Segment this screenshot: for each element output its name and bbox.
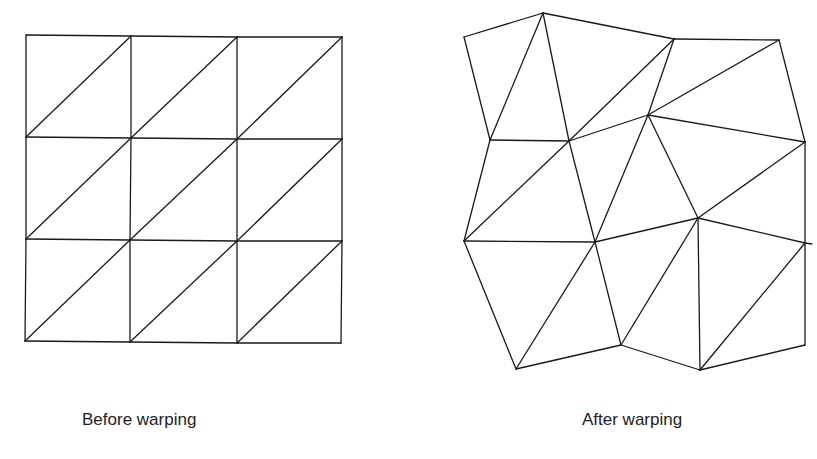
mesh-edge [543, 13, 569, 141]
mesh-edge [700, 243, 805, 370]
mesh-edge [130, 240, 237, 241]
mesh-edge [569, 39, 674, 141]
mesh-edge [237, 139, 342, 241]
mesh-after-warping [464, 13, 812, 370]
mesh-edge [26, 35, 131, 36]
mesh-edge [490, 140, 569, 141]
mesh-edge [516, 345, 621, 369]
mesh-edge [131, 138, 237, 139]
mesh-edge [674, 39, 779, 40]
mesh-edge [648, 115, 698, 218]
mesh-edge [130, 342, 237, 343]
mesh-edge [26, 239, 130, 240]
warping-figure [0, 0, 817, 459]
mesh-edge [516, 242, 595, 369]
mesh-edge [543, 13, 674, 39]
mesh-edge [237, 37, 342, 139]
mesh-edge [698, 218, 805, 243]
mesh-edge [648, 40, 779, 115]
mesh-edge [595, 218, 698, 242]
mesh-edge [26, 137, 131, 138]
mesh-edge [805, 243, 812, 244]
mesh-before-warping [25, 35, 342, 343]
mesh-edge [569, 141, 595, 242]
mesh-edge [130, 139, 237, 240]
mesh-edge [464, 241, 516, 369]
mesh-edge [698, 142, 805, 218]
mesh-edge [26, 36, 131, 137]
mesh-edge [25, 341, 130, 342]
mesh-edge [621, 345, 700, 370]
mesh-edge [26, 138, 131, 239]
mesh-edge [464, 37, 490, 140]
mesh-edge [131, 37, 237, 138]
mesh-edge [595, 115, 648, 242]
mesh-edge [130, 138, 131, 240]
mesh-edge [464, 141, 569, 241]
mesh-edge [131, 36, 237, 37]
mesh-edge [237, 241, 342, 343]
mesh-edge [700, 345, 805, 370]
mesh-edge [648, 115, 805, 142]
mesh-edge [341, 241, 342, 343]
mesh-edge [621, 218, 698, 345]
mesh-edge [464, 140, 490, 241]
mesh-edge [569, 115, 648, 141]
mesh-edge [779, 40, 805, 142]
caption-after-warping: After warping [582, 410, 682, 430]
mesh-edge [648, 39, 674, 115]
mesh-edge [464, 13, 543, 37]
mesh-edge [595, 242, 621, 345]
mesh-edge [25, 240, 130, 341]
mesh-edge [25, 239, 26, 341]
caption-before-warping: Before warping [82, 410, 196, 430]
mesh-edge [490, 13, 543, 140]
mesh-edge [130, 241, 237, 342]
mesh-edge [464, 241, 595, 242]
mesh-edge [698, 218, 700, 370]
